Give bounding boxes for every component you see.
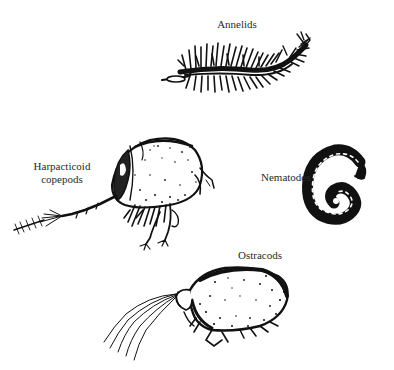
nematode-drawing	[308, 150, 366, 220]
nematodes-label: Nematodes	[261, 171, 310, 184]
annelid-drawing	[162, 32, 310, 92]
harpacticoid-label-line-1: Harpacticoid	[30, 160, 94, 173]
ostracod-drawing	[104, 267, 288, 360]
harpacticoid-label-line-2: copepods	[30, 173, 94, 186]
harpacticoid-copepods-label: Harpacticoid copepods	[30, 160, 94, 186]
annelids-label: Annelids	[207, 18, 267, 31]
copepod-drawing	[14, 138, 214, 250]
meiofauna-illustration: Annelids Harpacticoid copepods Nematodes…	[0, 0, 394, 370]
ostracods-label: Ostracods	[230, 249, 290, 262]
